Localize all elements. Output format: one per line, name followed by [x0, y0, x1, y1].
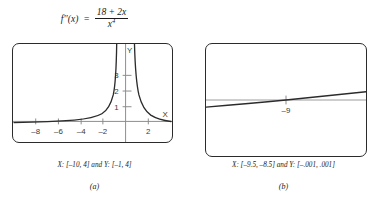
formula-denominator: x4: [95, 19, 129, 30]
graph-b-xtick-label-0: –9: [282, 106, 291, 115]
graph-a-ytick-label-0: 1: [114, 103, 118, 112]
graph-a-y-ticks: [123, 75, 132, 106]
caption-b-text: X: [–9.5, –8.5] and Y: [–.001, .001]: [232, 161, 335, 169]
graph-a-y-axis-name: Y: [127, 46, 133, 55]
graph-panel-a[interactable]: –8 –6 –4 –2 2 1 2 3 Y X: [12, 43, 173, 143]
formula-function-label: f''(x): [61, 14, 79, 24]
caption-a-text: X: [–10, 4] and Y: [–1, 4]: [57, 161, 131, 169]
graph-a-xtick-label-0: –8: [31, 127, 40, 136]
graph-a-xtick-label-4: 2: [146, 127, 150, 136]
formula-equals-sign: =: [84, 14, 89, 24]
graph-a-xtick-label-3: –2: [98, 127, 107, 136]
graph-a-xtick-label-2: –4: [77, 127, 86, 136]
caption-a: X: [–10, 4] and Y: [–1, 4]: [0, 160, 189, 170]
second-derivative-formula: f''(x) = 18 + 2x x4: [0, 8, 189, 31]
formula-fraction: 18 + 2x x4: [95, 7, 129, 30]
graph-b-curve: [206, 92, 366, 107]
graph-b-canvas: –9: [206, 44, 366, 156]
formula-denominator-exponent: 4: [112, 17, 115, 24]
graph-a-xtick-label-1: –6: [54, 127, 63, 136]
subfigure-label-b: (b): [189, 182, 378, 191]
graph-a-x-axis-name: X: [162, 110, 168, 119]
graph-a-curve-left-branch: [14, 44, 117, 123]
graph-panel-b[interactable]: –9: [205, 43, 367, 157]
caption-b: X: [–9.5, –8.5] and Y: [–.001, .001]: [189, 160, 378, 170]
subfigure-label-a: (a): [0, 182, 189, 191]
graph-a-canvas: –8 –6 –4 –2 2 1 2 3 Y X: [13, 44, 172, 142]
